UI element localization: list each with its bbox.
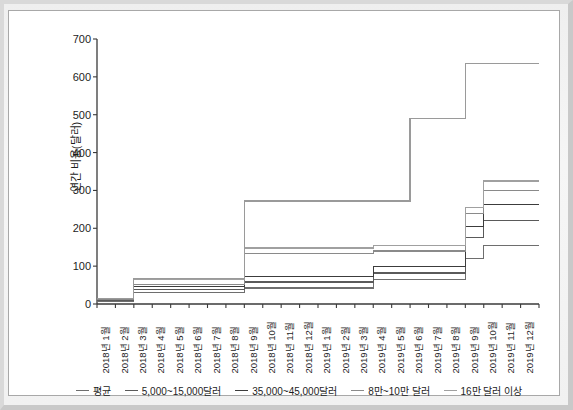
x-tick-label: 2019년 4월	[377, 326, 387, 373]
legend-item-label: 16만 달러 이상	[461, 383, 523, 398]
legend-line-icon	[351, 390, 364, 391]
x-tick-label: 2019년 2월	[340, 326, 350, 373]
screenshot-root: 연간 비용(달러) 0100200300400500600700 2018년 1…	[0, 0, 573, 410]
chart-legend: 평균5,000~15,000달러35,000~45,000달러8만~10만 달러…	[69, 381, 529, 399]
x-tick-label: 2019년 10월	[487, 321, 497, 373]
y-tick-label: 200	[73, 222, 91, 234]
x-tick-label: 2019년 9월	[469, 326, 479, 373]
x-tick-label: 2018년 4월	[156, 326, 166, 373]
legend-item-label: 평균	[93, 383, 111, 398]
x-tick-label: 2018년 5월	[174, 326, 184, 373]
legend-item-label: 8만~10만 달러	[368, 383, 429, 398]
y-tick-label: 100	[73, 260, 91, 272]
legend-line-icon	[235, 390, 248, 391]
x-tick-label: 2019년 1월	[322, 326, 332, 373]
x-axis-tick-labels: 2018년 1월2018년 2월2018년 3월2018년 4월2018년 5월…	[97, 309, 539, 373]
series-line-3	[97, 205, 539, 300]
x-tick-label: 2018년 2월	[119, 326, 129, 373]
x-tick-label: 2019년 7월	[432, 326, 442, 373]
x-tick-label: 2018년 12월	[303, 321, 313, 373]
y-tick-label: 0	[85, 298, 91, 310]
x-tick-label: 2018년 11월	[285, 321, 295, 373]
y-axis-tick-labels: 0100200300400500600700	[59, 39, 91, 304]
legend-line-icon	[76, 390, 89, 391]
x-tick-label: 2019년 11월	[506, 321, 516, 373]
x-tick-label: 2018년 9월	[248, 326, 258, 373]
x-tick-label: 2018년 6월	[193, 326, 203, 373]
y-tick-label: 500	[73, 109, 91, 121]
x-tick-label: 2019년 6월	[414, 326, 424, 373]
legend-item-4[interactable]: 8만~10만 달러	[351, 383, 429, 398]
x-tick-label: 2018년 1월	[101, 326, 111, 373]
x-tick-label: 2018년 10월	[266, 321, 276, 373]
legend-item-label: 5,000~15,000달러	[142, 383, 221, 398]
series-line-4	[97, 190, 539, 299]
legend-item-3[interactable]: 35,000~45,000달러	[235, 383, 337, 398]
x-tick-label: 2019년 3월	[359, 326, 369, 373]
y-tick-label: 300	[73, 184, 91, 196]
chart-area: 연간 비용(달러) 0100200300400500600700 2018년 1…	[9, 11, 561, 397]
y-tick-label: 700	[73, 33, 91, 45]
legend-item-1[interactable]: 평균	[76, 383, 111, 398]
legend-item-5[interactable]: 16만 달러 이상	[444, 383, 523, 398]
series-line-5	[97, 181, 539, 299]
legend-item-2[interactable]: 5,000~15,000달러	[125, 383, 221, 398]
x-tick-label: 2019년 12월	[524, 321, 534, 373]
axis-lines	[97, 39, 539, 304]
x-tick-label: 2019년 8월	[451, 326, 461, 373]
x-tick-label: 2018년 7월	[211, 326, 221, 373]
x-tick-label: 2019년 5월	[395, 326, 405, 373]
plot-region	[97, 39, 539, 304]
chart-panel: 연간 비용(달러) 0100200300400500600700 2018년 1…	[8, 10, 560, 396]
x-tick-label: 2018년 3월	[138, 326, 148, 373]
y-tick-label: 400	[73, 147, 91, 159]
legend-line-icon	[125, 390, 138, 391]
plot-svg	[97, 39, 539, 304]
legend-line-icon	[444, 390, 457, 391]
x-tick-label: 2018년 8월	[230, 326, 240, 373]
y-tick-label: 600	[73, 71, 91, 83]
legend-item-label: 35,000~45,000달러	[252, 383, 337, 398]
series-line-6	[97, 64, 539, 299]
